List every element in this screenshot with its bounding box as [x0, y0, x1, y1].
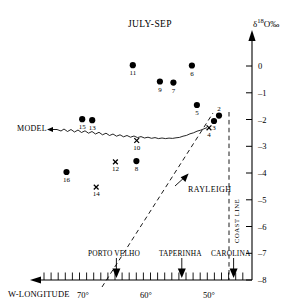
data-point-label-6: 6 — [186, 70, 198, 78]
data-point-label-12: 12 — [109, 165, 121, 173]
data-point-16 — [63, 169, 69, 175]
data-point-label-14: 14 — [90, 190, 102, 198]
x-axis-label: W-LONGITUDE — [8, 290, 70, 299]
data-point-15 — [79, 116, 85, 122]
data-point-7 — [170, 80, 176, 86]
data-point-label-10: 10 — [131, 144, 143, 152]
data-point-8 — [133, 158, 139, 164]
rayleigh-line — [102, 113, 213, 287]
data-point-label-15: 15 — [76, 123, 88, 131]
y-tick-label-minus-4: –4 — [258, 168, 267, 178]
y-axis-arrowhead — [248, 30, 255, 41]
x-axis — [30, 273, 252, 284]
data-point-label-7: 7 — [167, 87, 179, 95]
data-point-12 — [113, 160, 118, 165]
station-label-taperinha: TAPERINHA — [159, 249, 202, 258]
model-arrow — [47, 127, 57, 132]
data-point-label-2: 2 — [213, 105, 225, 113]
x-tick-label-50: 50° — [203, 290, 215, 300]
coast-line-label: COAST LINE — [234, 199, 241, 243]
rayleigh-arrow — [175, 173, 189, 186]
y-axis — [246, 30, 256, 280]
y-tick-label-0: 0 — [258, 61, 262, 71]
data-point-13 — [89, 117, 95, 123]
data-point-label-8: 8 — [130, 165, 142, 173]
data-point-label-16: 16 — [61, 176, 73, 184]
y-tick-label-minus-8: –8 — [258, 275, 267, 285]
chart-title: JULY-SEP — [128, 20, 172, 30]
data-point-label-4: 4 — [203, 131, 215, 139]
figure-panel: JULY-SEP δ18O‰ 0 –1 –2 –3 –4 –5 –6 –7 –8… — [0, 0, 304, 308]
x-axis-arrowhead — [30, 276, 41, 283]
station-marker-porto-velho — [112, 258, 120, 278]
data-point-5 — [194, 102, 200, 108]
data-point-6 — [189, 62, 195, 68]
chart-canvas — [0, 0, 304, 308]
data-markers-filled — [63, 62, 222, 175]
data-point-11 — [130, 62, 136, 68]
model-curve-label: MODEL — [17, 125, 47, 133]
data-point-10 — [134, 138, 139, 143]
y-tick-label-minus-2: –2 — [258, 115, 267, 125]
data-point-14 — [94, 185, 99, 190]
y-tick-label-minus-1: –1 — [258, 88, 267, 98]
station-label-carolina: CAROLINA — [211, 249, 250, 258]
data-point-label-9: 9 — [154, 86, 166, 94]
y-tick-label-minus-6: –6 — [258, 222, 267, 232]
station-markers — [112, 258, 237, 278]
data-point-label-5: 5 — [191, 109, 203, 117]
rayleigh-line-label: RAYLEIGH — [188, 186, 231, 194]
data-point-label-11: 11 — [127, 69, 139, 77]
x-tick-label-60: 60° — [140, 290, 152, 300]
y-tick-label-minus-3: –3 — [258, 141, 267, 151]
data-point-2 — [216, 113, 222, 119]
data-point-9 — [157, 78, 163, 84]
y-tick-label-minus-5: –5 — [258, 195, 267, 205]
y-tick-label-minus-7: –7 — [258, 248, 267, 258]
y-axis-label-rest: O‰ — [264, 19, 280, 29]
x-tick-label-70: 70° — [77, 290, 89, 300]
y-axis-label: δ18O‰ — [253, 18, 279, 29]
station-label-porto-velho: PORTO VELHO — [88, 249, 140, 258]
station-marker-carolina — [230, 258, 238, 278]
